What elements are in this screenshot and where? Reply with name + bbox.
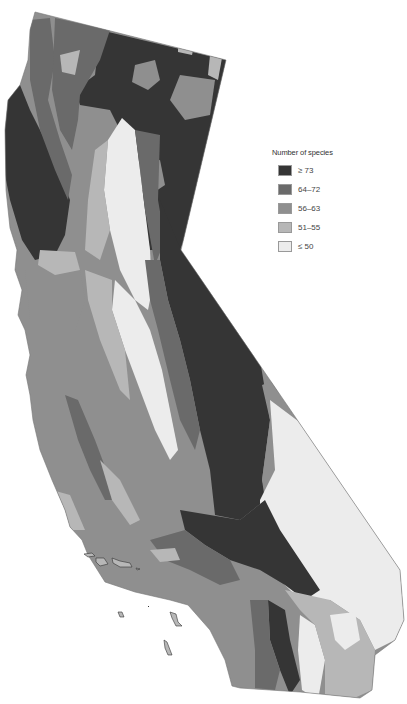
legend-label: 56–63: [298, 204, 320, 213]
legend-swatch: [278, 241, 292, 252]
legend-label: 64–72: [298, 185, 320, 194]
legend-swatch: [278, 203, 292, 214]
legend-item-mid-low: 51–55: [272, 221, 382, 234]
legend-label: ≤ 50: [298, 242, 314, 251]
legend-title: Number of species: [272, 148, 382, 157]
legend-item-low: ≤ 50: [272, 240, 382, 253]
map-legend: Number of species ≥ 73 64–72 56–63 51–55…: [272, 148, 382, 259]
island-santa-barbara: [148, 606, 149, 607]
island-san-clemente: [164, 640, 172, 655]
legend-swatch: [278, 165, 292, 176]
island-santa-catalina: [170, 612, 182, 626]
species-regions: [0, 0, 407, 704]
legend-swatch: [278, 184, 292, 195]
legend-item-mid-high: 64–72: [272, 183, 382, 196]
island-san-nicolas: [118, 612, 124, 617]
legend-swatch: [278, 222, 292, 233]
legend-item-mid: 56–63: [272, 202, 382, 215]
legend-label: ≥ 73: [298, 166, 314, 175]
legend-label: 51–55: [298, 223, 320, 232]
legend-item-high: ≥ 73: [272, 164, 382, 177]
california-species-map: [0, 0, 407, 704]
